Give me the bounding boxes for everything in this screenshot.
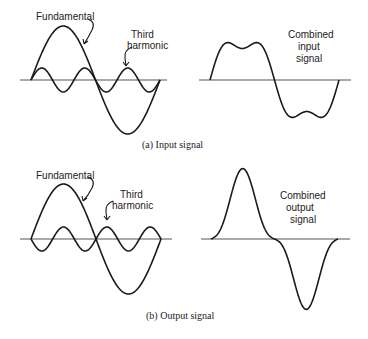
third-harmonic-label-b-line1: Third <box>120 189 143 200</box>
combined-output-label-line3: signal <box>290 214 316 225</box>
fundamental-label-a: Fundamental <box>36 11 94 22</box>
combined-input-label-line3: signal <box>296 53 322 64</box>
fundamental-arrow-a <box>83 19 93 44</box>
third-harmonic-label-b-line2: harmonic <box>112 200 153 211</box>
combined-output-label-line2: output <box>286 202 314 213</box>
combined-output-label-line1: Combined <box>280 190 326 201</box>
third-harmonic-label-a-line2: harmonic <box>127 40 168 51</box>
combined-input-label-line1: Combined <box>288 29 334 40</box>
caption-output-signal: (b) Output signal <box>146 310 214 321</box>
combined-input-label-line2: input <box>298 41 320 52</box>
third-harmonic-label-a-line1: Third <box>131 29 154 40</box>
harmonics-diagram: Fundamental Third harmonic Combined inpu… <box>0 0 368 339</box>
caption-input-signal: (a) Input signal <box>142 139 203 150</box>
fundamental-label-b: Fundamental <box>36 170 94 181</box>
